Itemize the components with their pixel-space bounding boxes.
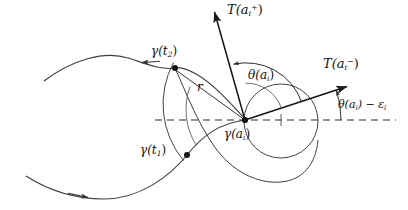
point-gamma-t2 <box>172 65 178 71</box>
label-tangent-minus: T(ai−) <box>323 57 359 72</box>
figure-canvas: T(ai+) T(ai−) θ(ai) θ(ai) − εi γ(ai) γ(t… <box>0 0 408 210</box>
tangent-minus-vector <box>245 87 347 121</box>
curve-upper-arrowhead <box>142 61 161 62</box>
point-gamma-a-i <box>242 117 248 123</box>
label-gamma-t2: γ(t2) <box>151 45 177 59</box>
label-gamma-a-i: γ(ai) <box>224 128 250 142</box>
label-theta: θ(ai) <box>248 69 274 83</box>
curve-gamma-upper <box>44 55 246 120</box>
radius-arc-outer <box>163 63 183 161</box>
curve-gamma-lower <box>26 120 246 199</box>
label-theta-minus-epsilon: θ(ai) − εi <box>338 99 386 112</box>
label-radius-r: r <box>197 81 203 93</box>
label-tangent-plus: T(ai+) <box>227 3 263 18</box>
radius-inner-arc <box>186 87 196 146</box>
theta-inner-arc <box>246 83 282 108</box>
point-gamma-t1 <box>184 152 190 158</box>
tangent-plus-vector <box>215 12 246 120</box>
label-gamma-t1: γ(t1) <box>140 144 166 158</box>
